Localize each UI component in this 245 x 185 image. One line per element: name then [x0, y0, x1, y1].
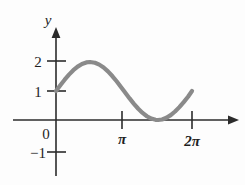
y-tick-label-2: 2: [34, 54, 42, 70]
y-tick-label-1: 1: [34, 84, 42, 100]
x-axis-arrow-icon: [228, 116, 239, 125]
function-curve: [56, 62, 192, 120]
y-axis-label: y: [43, 12, 52, 28]
sine-curve-plot: y 2 1 0 −1 π 2π: [0, 0, 245, 185]
x-tick-label-pi: π: [118, 131, 127, 147]
origin-label-0: 0: [42, 126, 50, 142]
y-axis-arrow-icon: [52, 27, 61, 38]
y-tick-label-minus-1: −1: [30, 145, 46, 161]
x-tick-label-2pi: 2π: [183, 133, 201, 149]
graph-figure: y 2 1 0 −1 π 2π: [0, 0, 245, 185]
